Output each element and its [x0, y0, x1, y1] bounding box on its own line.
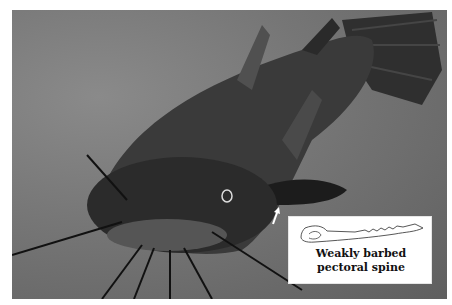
pectoral-spine-inset: Weakly barbed pectoral spine — [288, 216, 432, 284]
pointer-arrow-icon — [270, 206, 284, 226]
caption-line-1: Weakly barbed — [289, 247, 433, 261]
inset-caption: Weakly barbed pectoral spine — [289, 247, 433, 275]
pectoral-spine-drawing-icon — [295, 222, 427, 248]
caption-line-2: pectoral spine — [289, 261, 433, 275]
